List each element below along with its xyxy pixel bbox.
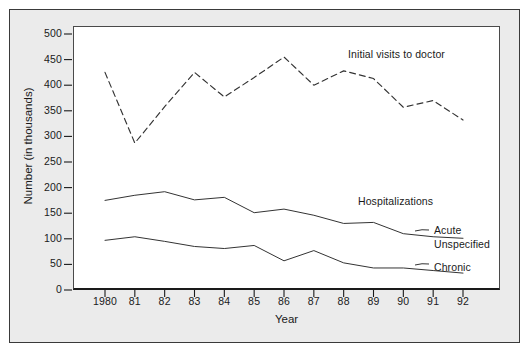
plot-area	[73, 26, 500, 290]
y-tick-label: 250	[28, 155, 62, 167]
x-axis-label: Year	[73, 313, 500, 325]
annotation-acute: Acute	[434, 224, 461, 236]
y-tick-label: 50	[28, 257, 62, 269]
annotation-unspecified: Unspecified	[434, 238, 490, 250]
annotation-hospitalizations: Hospitalizations	[358, 195, 433, 207]
y-tick-label: 350	[28, 104, 62, 116]
x-tick-label: 92	[446, 295, 480, 307]
chart-figure: Number (in thousands) Year 5004504003503…	[0, 0, 531, 354]
y-tick-label: 0	[28, 283, 62, 295]
annotation-chronic: Chronic	[434, 261, 471, 273]
y-tick-label: 100	[28, 232, 62, 244]
y-tick-label: 400	[28, 78, 62, 90]
y-tick-label: 300	[28, 129, 62, 141]
annotation-initial-visits: Initial visits to doctor	[348, 48, 445, 60]
y-tick-label: 450	[28, 53, 62, 65]
y-tick-label: 500	[28, 27, 62, 39]
y-tick-label: 150	[28, 206, 62, 218]
y-tick-label: 200	[28, 181, 62, 193]
